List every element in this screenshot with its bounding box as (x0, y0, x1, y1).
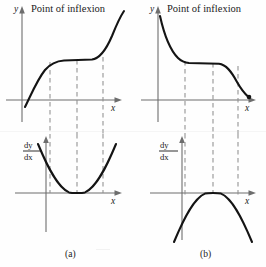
panel-a-function-curve (25, 11, 124, 107)
panel-a-top-x-axis-label: x (110, 103, 116, 113)
panel-a-derivative-plot: dy dx x (15, 134, 122, 232)
panel-b-function-plot: y x Point of inflexion (141, 3, 256, 134)
panel-b-function-curve (160, 16, 249, 97)
panel-b-bottom-y-axis-arrow (179, 136, 185, 143)
panel-a-bottom-x-axis-arrow (115, 190, 123, 195)
panel-a-derivative-label-denominator: dx (24, 152, 33, 162)
panel-a-top-y-axis-arrow (19, 6, 25, 14)
panel-a-caption: (a) (65, 249, 76, 260)
panel-b-bottom-x-axis-label: x (244, 196, 250, 206)
panel-a-function-plot: y x Point of inflexion (6, 3, 124, 134)
panel-a-bottom-x-axis-label: x (110, 196, 116, 206)
panel-b-derivative-plot: dy dx x (150, 134, 256, 242)
scan-artifact-line (0, 131, 266, 132)
panel-a-derivative-axis-label: dy dx (23, 140, 42, 162)
panel-a-inflexion-annotation: Point of inflexion (31, 3, 106, 14)
panel-b-top-y-axis-arrow (155, 6, 161, 14)
panel-b-derivative-curve (174, 193, 252, 242)
panel-b-derivative-label-numerator: dy (160, 140, 169, 150)
panel-b-inflexion-annotation: Point of inflexion (167, 3, 242, 14)
panel-a-top-x-axis-arrow (115, 97, 123, 102)
figure-canvas: y x Point of inflexion dy dx x (0, 0, 266, 267)
panel-b-derivative-label-denominator: dx (160, 152, 169, 162)
panel-b-curve-endpoint-dot (247, 95, 252, 100)
scan-artifact-speck (96, 249, 110, 250)
panel-b-derivative-axis-label: dy dx (159, 140, 178, 162)
panel-a-bottom-y-axis-arrow (43, 136, 49, 143)
panel-b-top-y-axis-label: y (149, 4, 155, 14)
panel-a-top-y-axis-label: y (13, 4, 19, 14)
panel-a-derivative-label-numerator: dy (24, 140, 33, 150)
panel-b-bottom-x-axis-arrow (249, 190, 257, 195)
inflexion-point-figure: y x Point of inflexion dy dx x (0, 0, 266, 267)
panel-b-caption: (b) (200, 249, 211, 260)
panel-b-top-x-axis-label: x (244, 103, 250, 113)
